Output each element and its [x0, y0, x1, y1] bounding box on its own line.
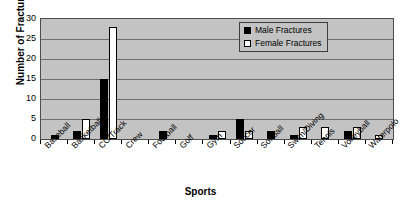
- bar-group: [203, 19, 230, 139]
- y-tick-label: 10: [12, 94, 36, 103]
- chart-legend: Male Fractures Female Fractures: [239, 22, 328, 52]
- legend-swatch-male-icon: [244, 27, 251, 34]
- y-tick-label: 15: [12, 74, 36, 83]
- legend-item-male: Male Fractures: [244, 26, 322, 35]
- y-tick-label: 30: [12, 14, 36, 23]
- y-tick-label: 25: [12, 34, 36, 43]
- legend-swatch-female-icon: [244, 40, 251, 47]
- legend-label-female: Female Fractures: [255, 39, 322, 48]
- bar-group: [149, 19, 176, 139]
- legend-item-female: Female Fractures: [244, 39, 322, 48]
- y-axis-tick-labels: 051015202530: [12, 12, 36, 144]
- y-tick-label: 0: [12, 134, 36, 143]
- bar-male: [100, 79, 108, 139]
- bar-chart-figure: Number of Fractures 051015202530 Male Fr…: [0, 0, 401, 207]
- x-tick-mark: [392, 140, 393, 144]
- x-axis-title: Sports: [0, 186, 401, 197]
- x-axis-tick-labels: BaseballBasketballCC/TrackCrewFootballGo…: [40, 144, 392, 188]
- bar-group: [122, 19, 149, 139]
- y-tick-label: 20: [12, 54, 36, 63]
- legend-label-male: Male Fractures: [255, 26, 312, 35]
- y-tick-label: 5: [12, 114, 36, 123]
- bar-group: [176, 19, 203, 139]
